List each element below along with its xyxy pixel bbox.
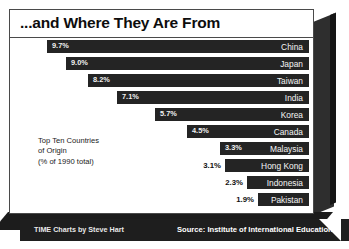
bar-country-label: Canada (274, 127, 303, 137)
bar-row: Indonesia2.3% (10, 175, 315, 192)
bar-hong-kong: Hong Kong (225, 159, 309, 172)
bar-value-label: 1.9% (228, 195, 254, 204)
bar-row: 4.5%Canada (10, 124, 315, 141)
bar-country-label: Pakistan (271, 195, 303, 205)
bar-indonesia: Indonesia (247, 176, 309, 189)
bar-row: 9.7%China (10, 39, 315, 56)
bar-country-label: China (281, 42, 303, 52)
bar-japan: 9.0%Japan (66, 57, 309, 70)
chart-panel: ...and Where They Are From Top Ten Count… (9, 9, 314, 214)
bar-row: 7.1%India (10, 90, 315, 107)
bar-country-label: Malaysia (270, 144, 303, 154)
bar-canada: 4.5%Canada (187, 125, 309, 138)
bar-korea: 5.7%Korea (155, 108, 309, 121)
bar-malaysia: 3.3%Malaysia (220, 142, 309, 155)
panel-right-edge-3d (330, 13, 336, 205)
footer-band: TIME Charts by Steve Hart Source: Instit… (20, 219, 349, 241)
title-divider (10, 37, 313, 38)
chart-figure: ...and Where They Are From Top Ten Count… (0, 0, 349, 249)
bar-india: 7.1%India (117, 91, 309, 104)
bar-value-label: 5.7% (160, 109, 177, 118)
bar-country-label: Korea (281, 110, 303, 120)
footer-credit: TIME Charts by Steve Hart (34, 225, 124, 234)
bar-value-label: 9.0% (71, 58, 88, 67)
bar-list: 9.7%China9.0%Japan8.2%Taiwan7.1%India5.7… (10, 39, 315, 209)
bar-value-label: 8.2% (93, 75, 110, 84)
bar-pakistan: Pakistan (258, 193, 309, 206)
page-title: ...and Where They Are From (20, 14, 220, 32)
bar-row: Hong Kong3.1% (10, 158, 315, 175)
bar-value-label: 3.1% (195, 161, 221, 170)
bar-country-label: Hong Kong (261, 161, 303, 171)
bar-row: Pakistan1.9% (10, 192, 315, 209)
bar-china: 9.7%China (47, 40, 309, 53)
bar-row: 3.3%Malaysia (10, 141, 315, 158)
bar-country-label: Japan (280, 59, 303, 69)
bar-taiwan: 8.2%Taiwan (88, 74, 309, 87)
bar-value-label: 3.3% (225, 143, 242, 152)
bar-country-label: Taiwan (277, 76, 303, 86)
bar-value-label: 7.1% (122, 92, 139, 101)
bar-row: 5.7%Korea (10, 107, 315, 124)
bar-country-label: Indonesia (267, 178, 303, 188)
bar-row: 8.2%Taiwan (10, 73, 315, 90)
bar-value-label: 9.7% (52, 41, 69, 50)
bar-value-label: 2.3% (217, 178, 243, 187)
bar-value-label: 4.5% (192, 126, 209, 135)
bar-country-label: India (285, 93, 303, 103)
bar-row: 9.0%Japan (10, 56, 315, 73)
footer-source: Source: Institute of International Educa… (177, 225, 333, 234)
footer-corner-notch (319, 219, 341, 241)
